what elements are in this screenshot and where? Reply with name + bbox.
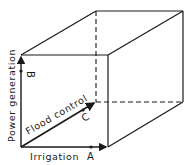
cube-hidden-edges [96, 11, 183, 102]
point-c-label: C [80, 111, 92, 124]
point-b-marker [19, 69, 22, 72]
objective-cube-diagram: Irrigation Power generation Flood contro… [0, 0, 191, 165]
irrigation-label: Irrigation [30, 151, 79, 162]
power-generation-label: Power generation [6, 49, 17, 142]
point-b-label: B [25, 71, 36, 78]
point-a-marker [89, 145, 92, 148]
point-a-label: A [87, 151, 94, 162]
